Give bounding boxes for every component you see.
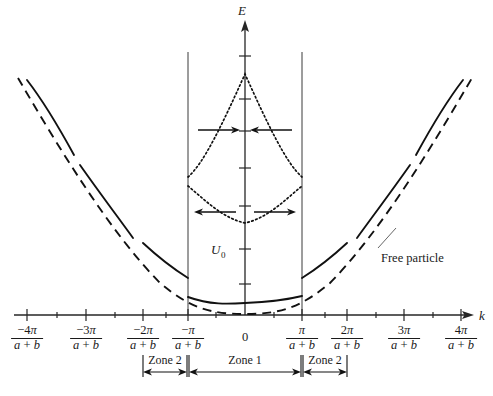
tick-label-3pi: 3π a + b — [388, 324, 420, 352]
zone-bracket-right — [303, 369, 347, 376]
zone-label-center: Zone 1 — [228, 353, 262, 367]
potential-depth-annotation: U 0 — [211, 242, 226, 260]
tick-numerator: 2π — [331, 324, 363, 337]
tick-denominator: a + b — [11, 338, 43, 352]
tick-label-minus-3pi: −3π a + b — [70, 324, 102, 352]
band-3-left — [80, 165, 133, 238]
free-particle-annotation: Free particle — [378, 228, 444, 265]
tick-denominator: a + b — [172, 338, 204, 352]
band-4-right — [416, 80, 463, 155]
arrow-upper-right-inward — [250, 127, 292, 134]
tick-numerator: π — [286, 324, 318, 337]
tick-numerator: 4π — [445, 324, 477, 337]
tick-label-4pi: 4π a + b — [445, 324, 477, 352]
arrow-lower-left-outward — [194, 209, 236, 216]
tick-label-zero: 0 — [242, 330, 248, 345]
tick-denominator: a + b — [70, 338, 102, 352]
free-particle-label: Free particle — [381, 251, 444, 265]
arrow-lower-right-outward — [254, 209, 296, 216]
potential-subscript: 0 — [221, 250, 226, 260]
tick-denominator: a + b — [331, 338, 363, 352]
tick-label-2pi: 2π a + b — [331, 324, 363, 352]
tick-label-minus-2pi: −2π a + b — [127, 324, 159, 352]
zone-brackets: Zone 2 Zone 1 Zone 2 — [143, 353, 347, 377]
zone-label-left: Zone 2 — [148, 353, 182, 367]
tick-label-minus-pi: −π a + b — [172, 324, 204, 352]
energy-axis-label: E — [237, 3, 246, 18]
tick-numerator: −π — [172, 324, 204, 337]
band-4-left — [27, 80, 74, 155]
free-particle-leader-line — [378, 228, 396, 248]
tick-denominator: a + b — [127, 338, 159, 352]
tick-denominator: a + b — [445, 338, 477, 352]
energy-axis — [239, 20, 251, 315]
tick-numerator: −3π — [70, 324, 102, 337]
tick-label-pi: π a + b — [286, 324, 318, 352]
tick-label-minus-4pi: −4π a + b — [11, 324, 43, 352]
zone-label-right: Zone 2 — [308, 353, 342, 367]
tick-numerator: −4π — [11, 324, 43, 337]
tick-denominator: a + b — [388, 338, 420, 352]
wavevector-axis — [14, 309, 474, 321]
band-structure-figure: Free particle U 0 E k — [0, 0, 493, 396]
arrow-upper-left-inward — [198, 127, 240, 134]
tick-numerator: 3π — [388, 324, 420, 337]
band-3-right — [357, 165, 410, 238]
zone-bracket-left — [143, 369, 187, 376]
tick-denominator: a + b — [286, 338, 318, 352]
band-2-left — [143, 243, 188, 278]
wavevector-axis-label: k — [479, 308, 485, 323]
tick-numerator: −2π — [127, 324, 159, 337]
zone-bracket-center — [189, 369, 301, 376]
